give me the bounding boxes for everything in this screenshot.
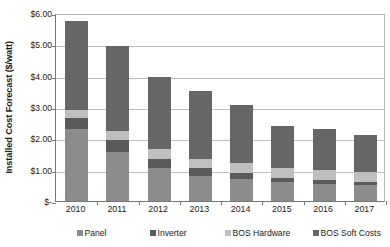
legend-swatch-icon [313, 230, 319, 236]
legend-item-bos-hardware[interactable]: BOS Hardware [225, 228, 290, 238]
bar-column[interactable] [354, 15, 377, 201]
bar-segment-bos-soft-costs[interactable] [271, 126, 294, 168]
bar-segment-bos-hardware[interactable] [148, 149, 171, 158]
y-axis-tick-label: $3.00 [30, 103, 52, 113]
legend-item-bos-soft-costs[interactable]: BOS Soft Costs [313, 228, 381, 238]
bar-column[interactable] [148, 15, 171, 201]
y-axis-tick-labels: $-$1.00$2.00$3.00$4.00$5.00$6.00 [18, 12, 54, 204]
bar-segment-inverter[interactable] [65, 118, 88, 129]
legend-label: BOS Soft Costs [321, 228, 381, 238]
legend-label: Panel [85, 228, 107, 238]
x-axis-tick-label: 2013 [190, 204, 210, 214]
stacked-bar[interactable] [106, 46, 129, 201]
y-axis-tick-label: $- [44, 197, 52, 207]
stacked-bar[interactable] [65, 21, 88, 201]
y-axis-tick-label: $4.00 [30, 72, 52, 82]
bar-segment-bos-hardware[interactable] [354, 172, 377, 181]
bar-segment-bos-hardware[interactable] [230, 163, 253, 172]
bar-segment-panel[interactable] [354, 185, 377, 201]
x-axis-tick-label: 2011 [107, 204, 126, 214]
bar-segment-bos-soft-costs[interactable] [354, 135, 377, 172]
y-axis-tick-label: $6.00 [30, 9, 52, 19]
bar-column[interactable] [230, 15, 253, 201]
bar-column[interactable] [271, 15, 294, 201]
bar-segment-bos-soft-costs[interactable] [313, 129, 336, 170]
legend-swatch-icon [77, 230, 83, 236]
y-axis-title: Installed Cost Forecast ($/watt) [0, 12, 18, 202]
bar-segment-bos-soft-costs[interactable] [230, 105, 253, 163]
y-axis-title-text: Installed Cost Forecast ($/watt) [4, 41, 14, 174]
x-axis-tick-label: 2014 [231, 204, 251, 214]
bar-column[interactable] [106, 15, 129, 201]
stacked-bar[interactable] [189, 91, 212, 201]
bar-segment-bos-hardware[interactable] [65, 110, 88, 118]
bar-segment-inverter[interactable] [189, 168, 212, 176]
stacked-bar-chart: Installed Cost Forecast ($/watt) $-$1.00… [0, 0, 390, 247]
stacked-bar[interactable] [313, 129, 336, 201]
bar-segment-panel[interactable] [148, 168, 171, 201]
x-axis-tick-mark [386, 201, 387, 205]
bar-segment-bos-hardware[interactable] [313, 170, 336, 180]
legend-swatch-icon [225, 230, 231, 236]
bar-segment-bos-hardware[interactable] [271, 168, 294, 178]
x-axis-tick-label: 2016 [313, 204, 333, 214]
bar-segment-inverter[interactable] [148, 159, 171, 168]
bar-series-group [56, 15, 384, 201]
bar-segment-panel[interactable] [313, 184, 336, 201]
legend-label: Inverter [158, 228, 187, 238]
legend-item-inverter[interactable]: Inverter [150, 228, 187, 238]
bar-segment-panel[interactable] [230, 179, 253, 201]
y-axis-tick-label: $5.00 [30, 40, 52, 50]
x-axis-tick-label: 2010 [66, 204, 86, 214]
bar-segment-bos-soft-costs[interactable] [189, 91, 212, 158]
x-axis-tick-label: 2017 [355, 204, 375, 214]
legend-swatch-icon [150, 230, 156, 236]
y-axis-tick-label: $2.00 [30, 134, 52, 144]
x-axis-tick-label: 2015 [272, 204, 292, 214]
bar-segment-bos-soft-costs[interactable] [106, 46, 129, 131]
bar-column[interactable] [313, 15, 336, 201]
x-axis-tick-label: 2012 [148, 204, 168, 214]
bar-segment-panel[interactable] [271, 182, 294, 201]
plot-area [55, 14, 385, 202]
bar-column[interactable] [65, 15, 88, 201]
bar-segment-inverter[interactable] [106, 140, 129, 153]
bar-segment-bos-soft-costs[interactable] [65, 21, 88, 110]
x-axis-tick-labels: 20102011201220132014201520162017 [55, 204, 385, 218]
bar-segment-bos-hardware[interactable] [106, 131, 129, 140]
legend-item-panel[interactable]: Panel [77, 228, 106, 238]
bar-segment-panel[interactable] [65, 129, 88, 201]
stacked-bar[interactable] [271, 126, 294, 201]
y-axis-tick-label: $1.00 [30, 166, 52, 176]
bar-segment-bos-soft-costs[interactable] [148, 77, 171, 149]
bar-segment-panel[interactable] [189, 176, 212, 201]
chart-legend: PanelInverterBOS HardwareBOS Soft Costs [55, 228, 387, 242]
stacked-bar[interactable] [230, 105, 253, 201]
stacked-bar[interactable] [148, 77, 171, 201]
stacked-bar[interactable] [354, 135, 377, 201]
bar-segment-panel[interactable] [106, 152, 129, 201]
legend-label: BOS Hardware [233, 228, 291, 238]
bar-segment-bos-hardware[interactable] [189, 159, 212, 168]
bar-column[interactable] [189, 15, 212, 201]
